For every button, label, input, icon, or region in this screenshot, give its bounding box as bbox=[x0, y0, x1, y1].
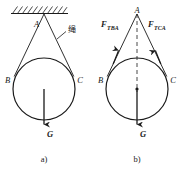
label-point-a-right: A bbox=[133, 5, 140, 15]
panel-b-group: A F TBA F TCA B C G b) bbox=[98, 5, 176, 164]
tension-vector-tca bbox=[155, 51, 160, 65]
rope-segment-ab bbox=[14, 14, 44, 77]
tension-vector-tba bbox=[113, 51, 118, 65]
label-force-tca: F TCA bbox=[147, 19, 166, 31]
physics-figure: A B C 绳 G a) A bbox=[0, 0, 182, 175]
ceiling-hatching bbox=[13, 7, 68, 14]
caption-panel-b: b) bbox=[133, 154, 140, 164]
label-point-a-left: A bbox=[33, 19, 40, 29]
caption-panel-a: a) bbox=[41, 154, 48, 164]
label-weight-a: G bbox=[47, 129, 54, 139]
label-force-tba-base: F bbox=[100, 19, 107, 29]
rope-segment-ac bbox=[44, 14, 74, 77]
label-rope-cn: 绳 bbox=[68, 24, 76, 34]
label-point-b-left: B bbox=[5, 75, 10, 85]
label-weight-b: G bbox=[140, 129, 147, 139]
label-force-tba: F TBA bbox=[100, 19, 119, 31]
label-point-c-left: C bbox=[77, 75, 83, 85]
label-point-b-right: B bbox=[98, 75, 103, 85]
panel-a-group: A B C 绳 G a) bbox=[5, 7, 83, 165]
rope-leader-line bbox=[57, 32, 66, 40]
rope-segment-ba bbox=[107, 14, 137, 77]
diagram-canvas: A B C 绳 G a) A bbox=[0, 0, 182, 175]
label-force-tba-sub: TBA bbox=[107, 25, 119, 31]
label-point-c-right: C bbox=[170, 75, 176, 85]
label-force-tca-base: F bbox=[147, 19, 154, 29]
label-force-tca-sub: TCA bbox=[154, 25, 166, 31]
